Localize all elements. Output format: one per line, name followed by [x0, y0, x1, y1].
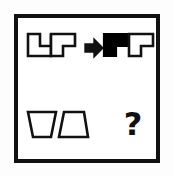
- puzzle-frame: ?: [14, 14, 160, 163]
- gamma-polyomino-shape-2: [129, 34, 153, 56]
- right-arrow-icon: [84, 36, 104, 60]
- trapezoid-group: [26, 108, 90, 142]
- arrow-svg: [84, 36, 104, 60]
- puzzle-root: ?: [0, 0, 173, 176]
- question-row: ?: [26, 102, 156, 148]
- trapezoid-pair: [26, 108, 90, 142]
- trapezoid-narrow-bottom-shape: [28, 112, 56, 137]
- trapezoid-narrow-top-shape: [59, 112, 88, 137]
- outlined-shape-pair: [26, 32, 80, 66]
- example-row: [26, 32, 156, 72]
- source-shape-group: [26, 32, 80, 66]
- question-mark[interactable]: ?: [118, 102, 148, 146]
- l-polyomino-filled-shape: [104, 34, 127, 56]
- gamma-polyomino-shape: [51, 34, 75, 56]
- result-shape-group: [102, 32, 156, 66]
- u-polyomino-shape: [28, 34, 51, 56]
- transformed-shape-pair: [102, 32, 156, 66]
